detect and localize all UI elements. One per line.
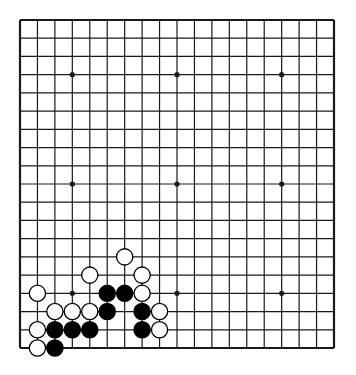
white-stone (134, 267, 150, 283)
star-point-icon (174, 72, 179, 77)
white-stone (29, 322, 45, 338)
white-stone (82, 303, 98, 319)
go-board[interactable] (0, 0, 356, 375)
star-point-icon (70, 291, 75, 296)
star-point-icon (174, 291, 179, 296)
black-stone (64, 322, 80, 338)
black-stone (47, 340, 63, 356)
star-point-icon (174, 181, 179, 186)
black-stone (82, 322, 98, 338)
black-stone (99, 285, 115, 301)
black-stone (47, 322, 63, 338)
white-stone (117, 249, 133, 265)
black-stone (99, 303, 115, 319)
white-stone (82, 267, 98, 283)
black-stone (134, 303, 150, 319)
white-stone (134, 285, 150, 301)
white-stone (151, 303, 167, 319)
black-stone (117, 285, 133, 301)
white-stone (47, 303, 63, 319)
white-stone (29, 340, 45, 356)
white-stone (29, 285, 45, 301)
stones-layer (29, 249, 167, 356)
black-stone (134, 322, 150, 338)
star-point-icon (279, 291, 284, 296)
white-stone (64, 303, 80, 319)
star-point-icon (70, 181, 75, 186)
white-stone (151, 322, 167, 338)
star-point-icon (279, 72, 284, 77)
star-point-icon (70, 72, 75, 77)
star-point-icon (279, 181, 284, 186)
